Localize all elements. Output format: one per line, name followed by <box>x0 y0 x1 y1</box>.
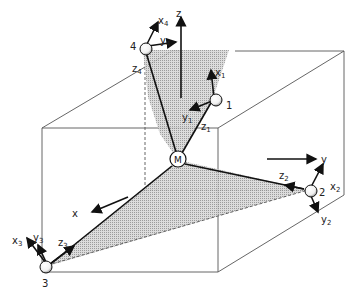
node-3-x-label: x3 <box>12 235 22 248</box>
z-axis-label: z <box>176 8 181 19</box>
node-2-label: 2 <box>319 187 325 198</box>
node-2-sphere <box>305 185 317 197</box>
node-4-x-vector <box>146 22 158 46</box>
node-1-sphere <box>210 94 222 106</box>
y-axis-label: y <box>321 154 327 165</box>
tetrahedral-geometry-diagram: z y x x4 y4 z4 4 x1 y1 z1 1 x2 y2 z2 2 <box>0 0 351 295</box>
node-2-x-vector <box>311 164 323 187</box>
shaded-plane-lower <box>48 160 308 266</box>
node-2-y-label: y2 <box>321 214 331 227</box>
node-4-label: 4 <box>130 41 136 52</box>
x-axis-label: x <box>72 208 78 219</box>
node-2-x-label: x2 <box>330 181 340 194</box>
center-atom-label: M <box>174 155 182 165</box>
node-4-y-label: y4 <box>160 35 171 48</box>
node-2-y-vector <box>311 196 318 212</box>
node-4-sphere <box>140 43 152 55</box>
node-3-z-label: z3 <box>58 237 68 250</box>
center-atom: M <box>170 151 186 167</box>
node-3-label: 3 <box>42 278 48 289</box>
node-1-label: 1 <box>226 100 232 111</box>
node-3-sphere <box>40 261 52 273</box>
node-2-z-label: z2 <box>279 170 289 183</box>
node-4-x-label: x4 <box>158 15 169 28</box>
node-1-z-label: z1 <box>201 121 211 134</box>
cube-edge-top-right <box>218 51 344 128</box>
